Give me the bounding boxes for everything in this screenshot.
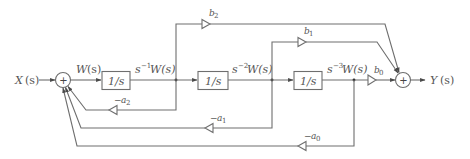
svg-text:0: 0 xyxy=(379,69,383,77)
svg-text:1/s: 1/s xyxy=(300,75,317,88)
svg-text:(s): (s) xyxy=(25,74,39,87)
svg-text:2: 2 xyxy=(214,12,218,20)
gain-neg-a2-triangle xyxy=(109,106,117,115)
gain-b1-triangle xyxy=(298,38,306,47)
svg-text:W(s): W(s) xyxy=(150,63,176,76)
feedback-a0-wire-out xyxy=(63,88,298,146)
integrator-1-output-label: s −1 W(s) xyxy=(135,62,176,76)
gain-neg-a0-triangle xyxy=(298,142,306,151)
gain-b0-label: b 0 xyxy=(374,65,383,77)
input-label: X (s) xyxy=(14,74,39,87)
output-label: Y (s) xyxy=(430,74,454,87)
sum-junction-input: + xyxy=(56,73,71,88)
svg-text:W(s): W(s) xyxy=(342,63,368,76)
svg-text:Y: Y xyxy=(430,74,439,87)
integrator-block-2: 1/s xyxy=(198,72,228,90)
svg-text:W(s): W(s) xyxy=(247,63,273,76)
gain-b1-label: b 1 xyxy=(304,26,313,38)
svg-text:+: + xyxy=(59,75,67,86)
gain-neg-a1-triangle xyxy=(205,124,213,133)
svg-text:1: 1 xyxy=(222,117,226,125)
state-signal-label: W (s) xyxy=(76,63,101,76)
feedback-a1-wire-out xyxy=(66,88,206,129)
integrator-block-3: 1/s xyxy=(294,72,322,90)
svg-text:1/s: 1/s xyxy=(108,75,125,88)
svg-text:1: 1 xyxy=(309,30,313,38)
svg-text:2: 2 xyxy=(126,99,130,107)
svg-text:X: X xyxy=(14,74,24,87)
block-diagram: X (s) + W (s) 1/s s −1 W(s) 1/s s −2 W(s… xyxy=(0,0,470,159)
integrator-2-output-label: s −2 W(s) xyxy=(232,62,273,76)
gain-b0-triangle xyxy=(368,75,376,85)
svg-text:0: 0 xyxy=(316,135,320,143)
sum-junction-output: + xyxy=(396,73,411,88)
integrator-block-1: 1/s xyxy=(102,72,130,90)
svg-text:(s): (s) xyxy=(87,63,101,76)
svg-text:1/s: 1/s xyxy=(205,75,222,88)
gain-b2-triangle xyxy=(202,20,210,29)
svg-text:(s): (s) xyxy=(440,74,454,87)
svg-text:+: + xyxy=(399,75,407,86)
gain-b2-label: b 2 xyxy=(209,8,218,20)
integrator-3-output-label: s −3 W(s) xyxy=(327,62,368,76)
